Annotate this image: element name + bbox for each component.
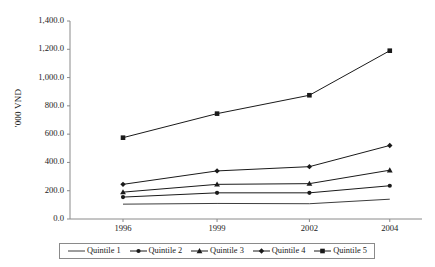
chart-container: '000 VND 0.0200.0400.0600.0800.01,000.01… xyxy=(0,0,435,267)
series-line xyxy=(123,51,390,138)
legend-item[interactable]: Quintile 1 xyxy=(67,246,121,256)
legend-item[interactable]: Quintile 5 xyxy=(313,246,367,256)
legend-swatch-triangle-icon xyxy=(190,246,209,256)
data-point-marker-circle xyxy=(136,249,140,253)
series-line xyxy=(123,145,390,184)
series-line xyxy=(123,186,390,197)
series-5 xyxy=(121,48,392,140)
data-point-marker-diamond xyxy=(387,143,392,148)
legend-label: Quintile 2 xyxy=(149,246,183,256)
chart-legend: Quintile 1Quintile 2Quintile 3Quintile 4… xyxy=(59,243,375,259)
data-point-marker-diamond xyxy=(259,248,264,253)
legend-label: Quintile 1 xyxy=(87,246,121,256)
legend-label: Quintile 4 xyxy=(272,246,306,256)
legend-label: Quintile 5 xyxy=(333,246,367,256)
data-point-marker-square xyxy=(121,135,126,140)
series-2 xyxy=(121,184,392,200)
legend-item[interactable]: Quintile 2 xyxy=(129,246,183,256)
data-point-marker-circle xyxy=(121,195,125,199)
data-point-marker-circle xyxy=(215,191,219,195)
data-point-marker-square xyxy=(320,249,325,254)
legend-swatch-circle-icon xyxy=(129,246,148,256)
legend-swatch-square-icon xyxy=(313,246,332,256)
legend-label: Quintile 3 xyxy=(210,246,244,256)
series-4 xyxy=(120,143,392,187)
legend-swatch-none-icon xyxy=(67,246,86,256)
series-1 xyxy=(123,199,390,204)
data-point-marker-triangle xyxy=(387,167,393,172)
series-3 xyxy=(120,167,393,194)
data-point-marker-diamond xyxy=(307,164,312,169)
legend-item[interactable]: Quintile 3 xyxy=(190,246,244,256)
data-point-marker-square xyxy=(307,93,312,98)
data-point-marker-square xyxy=(215,111,220,116)
plot-area xyxy=(0,0,435,267)
series-line xyxy=(123,199,390,204)
data-point-marker-diamond xyxy=(120,182,125,187)
legend-swatch-diamond-icon xyxy=(252,246,271,256)
data-point-marker-circle xyxy=(307,191,311,195)
data-point-marker-circle xyxy=(388,184,392,188)
legend-item[interactable]: Quintile 4 xyxy=(252,246,306,256)
data-point-marker-square xyxy=(387,48,392,53)
data-point-marker-diamond xyxy=(214,168,219,173)
